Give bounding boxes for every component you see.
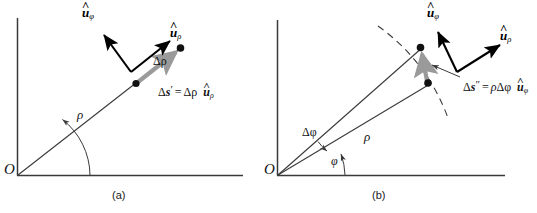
panel-a-u-phi-sub: φ <box>89 11 94 21</box>
panel-a-u-phi-label: ˄ u φ <box>82 6 94 21</box>
panel-a-eq-sub: ρ <box>210 91 214 100</box>
panel-b-u-phi-arrow <box>438 32 457 72</box>
panel-b-eq-hat: ˄ <box>517 75 524 86</box>
panel-a-u-phi-hat: ˄ <box>82 0 89 12</box>
panel-a-delta-rho-label: Δρ <box>153 55 167 67</box>
panel-b-displacement-equation: Δs″=ρΔφ˄uφ <box>463 79 528 95</box>
panel-b-axes <box>277 20 505 176</box>
panel-a-u-rho-sub: ρ <box>177 31 181 41</box>
panel-a-displacement-equation: Δs′=Δρ˄uρ <box>158 84 214 100</box>
panel-a-u-phi-arrow <box>104 35 131 72</box>
panel-a-eq-delta: Δ <box>158 85 166 99</box>
panel-b-u-rho-arrow <box>457 45 500 72</box>
panel-a-eq-delta-rho: Δρ <box>184 85 198 99</box>
panel-b-origin-label: O <box>264 162 275 177</box>
panel-b-eq-delta-phi: Δφ <box>496 80 511 94</box>
panel-b-radial-line-upper <box>278 47 423 175</box>
panel-b-u-phi-hat: ˄ <box>427 0 434 12</box>
panel-b-eq-equals: = <box>482 80 489 94</box>
panel-a-angle-arc <box>63 120 91 176</box>
panel-a-point-outer <box>177 44 185 52</box>
panel-b-eq-delta: Δ <box>463 80 471 94</box>
panel-a-caption: (a) <box>112 189 125 201</box>
panel-a-u-rho-hat: ˄ <box>170 20 177 32</box>
panel-b-u-rho-label: ˄ u ρ <box>500 29 511 44</box>
panel-b-phi-arc <box>341 154 345 175</box>
panel-a-u-rho-label: ˄ u ρ <box>170 26 181 41</box>
panel-a-eq-hat: ˄ <box>203 80 210 91</box>
panel-b-eq-sub: φ <box>524 86 528 95</box>
panel-a-origin-label: O <box>4 162 15 177</box>
panel-b-eq-prime: ″ <box>475 78 480 90</box>
panel-b-displacement-arrow <box>422 54 427 81</box>
panel-a-point-inner <box>132 80 139 87</box>
panel-a-eq-prime: ′ <box>170 83 172 95</box>
panel-b-u-phi-label: ˄ u φ <box>427 6 439 21</box>
panel-a-radius-label: ρ <box>77 108 83 121</box>
panel-b-radius-arc-dashed <box>378 26 448 118</box>
panel-b-delta-phi-label: Δφ <box>302 126 317 138</box>
panel-b-u-rho-sub: ρ <box>507 34 511 44</box>
panel-b-u-rho-hat: ˄ <box>500 23 507 35</box>
panel-b-caption: (b) <box>372 189 385 201</box>
panel-b-phi-label: φ <box>331 155 338 167</box>
panel-b-u-phi-sub: φ <box>434 11 439 21</box>
panel-b-point-lower <box>424 79 432 87</box>
panel-b-unit-vectors <box>438 32 500 72</box>
panel-b-radius-label: ρ <box>364 130 370 143</box>
panel-b-radial-line-lower <box>278 84 430 175</box>
panel-b-point-upper <box>417 44 425 52</box>
panel-a-eq-equals: = <box>175 85 182 99</box>
